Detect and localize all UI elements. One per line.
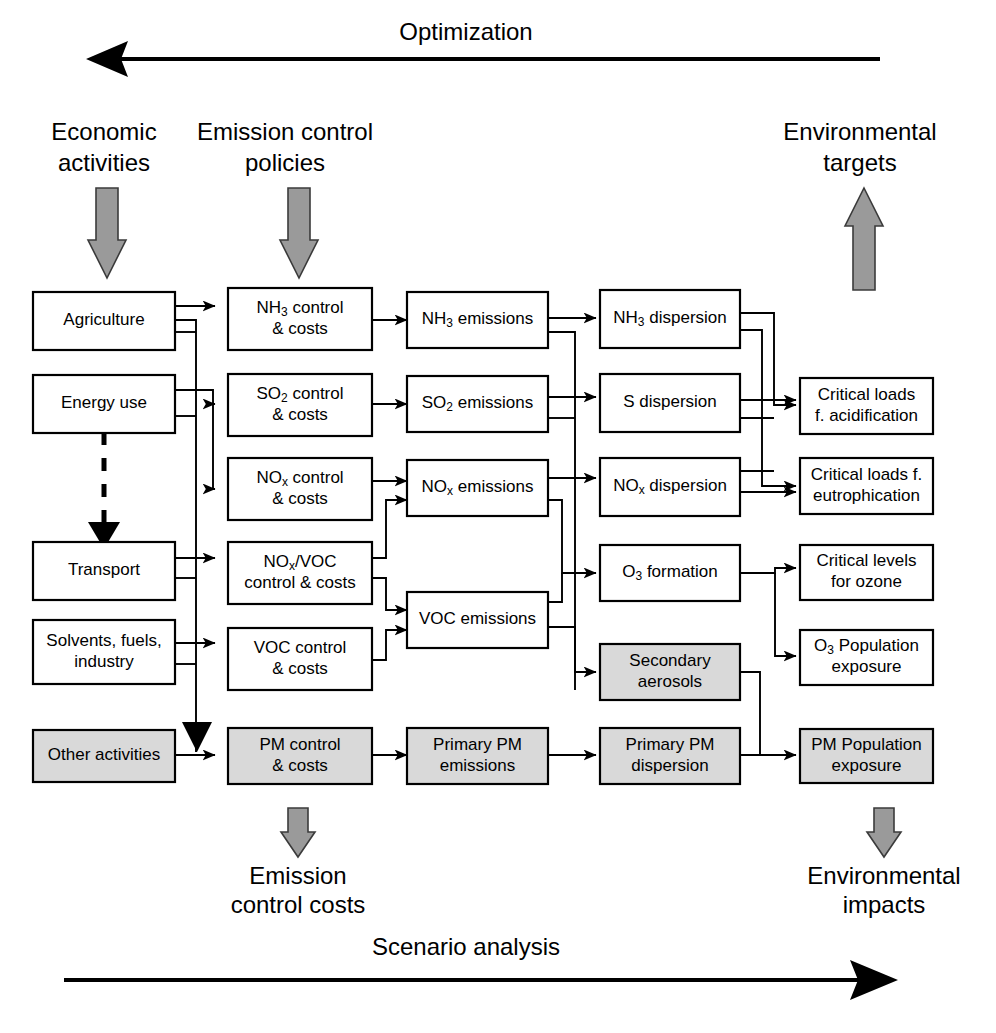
conn-emissionsbus-secondaryaerosols — [548, 627, 596, 672]
box-nh3-emissions[interactable]: NH3 emissions — [407, 292, 548, 348]
box-pm-population-exposure[interactable]: PM Populationexposure — [800, 729, 933, 783]
box-so2-control[interactable]: SO2 control& costs — [228, 374, 372, 436]
down-block-arrow-icon-economic — [88, 188, 126, 278]
box-pm-control[interactable]: PM control& costs — [228, 728, 372, 784]
box-voc-emissions[interactable]: VOC emissions — [407, 592, 548, 648]
box-label-nox-dispersion-line1: NOx dispersion — [613, 476, 727, 497]
box-label-voc-control-line2: & costs — [272, 659, 328, 678]
box-label-agriculture-line1: Agriculture — [63, 310, 144, 329]
box-nox-dispersion[interactable]: NOx dispersion — [600, 458, 740, 516]
box-layer: AgricultureEnergy useTransportSolvents, … — [33, 288, 933, 784]
box-s-dispersion[interactable]: S dispersion — [600, 374, 740, 432]
box-label-critical-loads-eutrophication-line2: eutrophication — [813, 486, 920, 505]
box-agriculture[interactable]: Agriculture — [33, 292, 175, 350]
box-label-solvents-fuels-industry-line2: industry — [74, 652, 134, 671]
box-critical-loads-eutrophication[interactable]: Critical loads f.eutrophication — [800, 458, 933, 514]
footer-environmental-impacts: Environmental impacts — [807, 808, 960, 918]
box-o3-population-exposure[interactable]: O3 Populationexposure — [800, 630, 933, 685]
conn-o3formation-criticallevels — [740, 568, 796, 573]
conn-activities-bus — [175, 320, 196, 752]
conn-noxemissions-o3formation — [548, 500, 596, 573]
diagram-canvas: Optimization Economic activities Emissio… — [0, 0, 996, 1033]
box-secondary-aerosols[interactable]: Secondaryaerosols — [600, 644, 740, 700]
box-voc-control[interactable]: VOC control& costs — [228, 628, 372, 690]
conn-o3formation-o3population — [775, 573, 796, 656]
box-label-so2-emissions-line1: SO2 emissions — [422, 393, 534, 414]
footer-emission-control-costs: Emission control costs — [231, 808, 366, 918]
conn-energy-so2control — [175, 390, 215, 404]
box-nox-control[interactable]: NOx control& costs — [228, 458, 372, 520]
box-so2-emissions[interactable]: SO2 emissions — [407, 376, 548, 432]
box-label-nox-control-line1: NOx control — [256, 468, 343, 489]
box-label-nh3-dispersion-line1: NH3 dispersion — [613, 308, 726, 329]
column-header-environmental-targets: Environmental targets — [783, 118, 936, 290]
box-nh3-dispersion[interactable]: NH3 dispersion — [600, 290, 740, 348]
box-energy-use[interactable]: Energy use — [33, 375, 175, 433]
emission-control-policies-header-line1: Emission control — [197, 118, 373, 145]
box-label-secondary-aerosols-line1: Secondary — [629, 651, 711, 670]
environmental-impacts-line1: Environmental — [807, 862, 960, 889]
box-label-nox-emissions-line1: NOx emissions — [422, 477, 534, 498]
scenario-analysis-axis-label: Scenario analysis — [372, 933, 560, 960]
box-label-energy-use-line1: Energy use — [61, 393, 147, 412]
box-critical-levels-ozone[interactable]: Critical levelsfor ozone — [800, 545, 933, 600]
box-label-so2-control-line1: SO2 control — [257, 384, 344, 405]
box-label-critical-levels-ozone-line1: Critical levels — [816, 551, 916, 570]
box-label-nox-control-line2: & costs — [272, 489, 328, 508]
box-label-voc-emissions-line1: VOC emissions — [419, 609, 536, 628]
box-label-critical-loads-eutrophication-line1: Critical loads f. — [811, 465, 922, 484]
emission-control-costs-line2: control costs — [231, 891, 366, 918]
box-nox-emissions[interactable]: NOx emissions — [407, 460, 548, 516]
box-label-critical-loads-acidification-line1: Critical loads — [818, 385, 915, 404]
conn-bus-noxcontrol — [213, 404, 215, 489]
box-critical-loads-acidification[interactable]: Critical loadsf. acidification — [800, 378, 933, 434]
conn-voccontrol-vocemissions — [372, 630, 407, 660]
box-label-nox-voc-control-line2: control & costs — [244, 573, 356, 592]
column-header-economic-activities: Economic activities — [51, 118, 156, 278]
box-label-pm-control-line1: PM control — [259, 735, 340, 754]
box-o3-formation[interactable]: O3 formation — [600, 545, 740, 601]
up-block-arrow-icon-targets — [845, 188, 883, 290]
economic-activities-header-line1: Economic — [51, 118, 156, 145]
column-header-emission-control-policies: Emission control policies — [197, 118, 373, 278]
box-label-s-dispersion-line1: S dispersion — [623, 392, 717, 411]
box-label-o3-population-exposure-line2: exposure — [832, 657, 902, 676]
box-label-other-activities-line1: Other activities — [48, 745, 160, 764]
box-label-pm-population-exposure-line1: PM Population — [811, 735, 922, 754]
box-label-critical-loads-acidification-line2: f. acidification — [815, 406, 918, 425]
box-label-solvents-fuels-industry-line1: Solvents, fuels, — [46, 631, 161, 650]
optimization-axis: Optimization — [86, 18, 880, 77]
optimization-axis-label: Optimization — [399, 18, 532, 45]
economic-activities-header-line2: activities — [58, 149, 150, 176]
box-label-primary-pm-emissions-line1: Primary PM — [433, 735, 522, 754]
box-other-activities[interactable]: Other activities — [33, 730, 175, 782]
scenario-analysis-axis: Scenario analysis — [64, 933, 898, 1000]
environmental-targets-header-line2: targets — [823, 149, 896, 176]
box-label-primary-pm-emissions-line2: emissions — [440, 756, 516, 775]
down-block-arrow-icon-costs — [281, 808, 315, 857]
conn-vocemissions-o3formation — [548, 573, 562, 602]
box-label-pm-control-line2: & costs — [272, 756, 328, 775]
down-block-arrow-icon-impacts — [867, 808, 901, 857]
box-label-primary-pm-dispersion-line2: dispersion — [631, 756, 709, 775]
box-label-secondary-aerosols-line2: aerosols — [638, 672, 702, 691]
rains-flow-diagram: Optimization Economic activities Emissio… — [0, 0, 996, 1033]
box-label-nh3-control-line1: NH3 control — [257, 298, 344, 319]
environmental-targets-header-line1: Environmental — [783, 118, 936, 145]
box-transport[interactable]: Transport — [33, 542, 175, 600]
emission-control-policies-header-line2: policies — [245, 149, 325, 176]
box-solvents-fuels-industry[interactable]: Solvents, fuels,industry — [33, 620, 175, 684]
conn-noxvoccontrol-vocemissions — [372, 578, 407, 610]
box-label-nox-voc-control-line1: NOx/VOC — [263, 552, 336, 573]
box-nh3-control[interactable]: NH3 control& costs — [228, 288, 372, 350]
box-nox-voc-control[interactable]: NOx/VOCcontrol & costs — [228, 542, 372, 604]
box-label-so2-control-line2: & costs — [272, 405, 328, 424]
box-label-nh3-control-line2: & costs — [272, 319, 328, 338]
box-primary-pm-dispersion[interactable]: Primary PMdispersion — [600, 728, 740, 784]
conn-noxvoccontrol-noxemissions — [372, 500, 407, 558]
box-label-transport-line1: Transport — [68, 560, 140, 579]
box-primary-pm-emissions[interactable]: Primary PMemissions — [407, 728, 548, 784]
conn-nh3dispersion-acidification — [740, 313, 796, 405]
box-label-voc-control-line1: VOC control — [254, 638, 347, 657]
box-label-primary-pm-dispersion-line1: Primary PM — [626, 735, 715, 754]
